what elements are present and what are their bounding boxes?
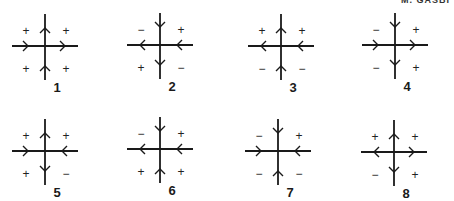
diagram-number-label: 8 [396, 186, 416, 201]
sign-top-left: − [370, 24, 382, 36]
sign-bottom-left: + [20, 63, 32, 75]
sign-bottom-left: − [370, 62, 382, 74]
sign-top-right: + [60, 25, 72, 37]
sign-bottom-left: − [256, 63, 268, 75]
sign-top-right: + [409, 131, 421, 143]
diagram-3: ++−−3 [232, 0, 322, 95]
sign-top-right: + [60, 130, 72, 142]
cross-axes-icon [342, 104, 442, 201]
diagram-2: −++−2 [112, 0, 202, 95]
phase-diagram-grid: ++++1−++−2++−−3−+−+4+++−5−+++6−+−−7++−+8 [0, 0, 454, 201]
sign-top-right: + [410, 24, 422, 36]
diagram-number-label: 5 [47, 185, 67, 200]
sign-bottom-right: − [60, 168, 72, 180]
sign-top-left: + [256, 25, 268, 37]
sign-bottom-right: − [296, 63, 308, 75]
sign-bottom-left: + [135, 166, 147, 178]
diagram-6: −+++6 [112, 104, 202, 199]
sign-top-left: − [135, 128, 147, 140]
diagram-8: ++−+8 [342, 104, 432, 199]
sign-bottom-right: + [60, 63, 72, 75]
sign-top-left: + [20, 25, 32, 37]
diagram-number-label: 4 [397, 79, 417, 94]
diagram-number-label: 2 [162, 79, 182, 94]
sign-top-left: + [369, 131, 381, 143]
sign-bottom-right: − [293, 168, 305, 180]
sign-bottom-right: + [409, 169, 421, 181]
diagram-4: −+−+4 [342, 0, 432, 95]
diagram-7: −+−−7 [232, 104, 322, 199]
sign-bottom-left: − [369, 169, 381, 181]
sign-top-left: + [20, 130, 32, 142]
diagram-number-label: 1 [47, 80, 67, 95]
cross-axes-icon [232, 0, 332, 100]
diagram-number-label: 7 [280, 185, 300, 200]
cross-axes-icon [342, 0, 442, 100]
sign-bottom-left: + [20, 168, 32, 180]
sign-bottom-right: + [175, 166, 187, 178]
diagram-5: +++−5 [0, 104, 90, 199]
sign-bottom-left: + [135, 62, 147, 74]
sign-top-right: + [296, 25, 308, 37]
sign-top-right: + [175, 24, 187, 36]
sign-bottom-right: + [410, 62, 422, 74]
diagram-1: ++++1 [0, 0, 90, 95]
diagram-number-label: 3 [283, 80, 303, 95]
sign-top-right: + [293, 130, 305, 142]
sign-top-left: − [253, 130, 265, 142]
sign-top-right: + [175, 128, 187, 140]
diagram-number-label: 6 [162, 183, 182, 198]
sign-bottom-right: − [175, 62, 187, 74]
sign-top-left: − [135, 24, 147, 36]
sign-bottom-left: − [253, 168, 265, 180]
